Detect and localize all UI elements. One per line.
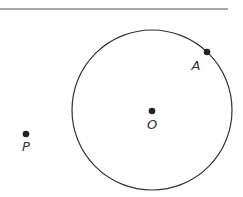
- point-o: [149, 108, 156, 115]
- point-a: [204, 49, 211, 56]
- label-a: A: [191, 58, 201, 73]
- label-p: P: [22, 139, 30, 154]
- geometry-diagram: A O P: [0, 0, 243, 197]
- point-p: [23, 131, 30, 138]
- label-o: O: [147, 117, 157, 132]
